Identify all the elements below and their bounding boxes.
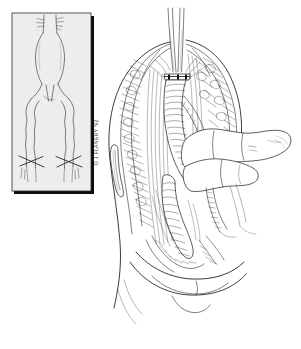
artist-signature: D J FLANERY '92 [93, 119, 99, 165]
surgical-illustration-figure: D J FLANERY '92 [0, 0, 301, 349]
vascular-clamp [164, 74, 190, 80]
inset-tone [13, 14, 90, 190]
inset-diagram: D J FLANERY '92 [12, 13, 99, 194]
illustration-canvas: D J FLANERY '92 [0, 0, 301, 349]
